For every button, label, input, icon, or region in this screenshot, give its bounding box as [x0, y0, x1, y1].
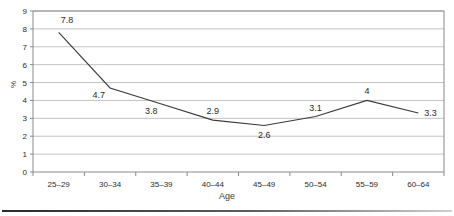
data-point-label: 7.8: [61, 15, 74, 25]
footer-divider: [2, 210, 452, 212]
line-chart: 9876543210 25–2930–3435–3940–4445–4950–5…: [0, 0, 454, 216]
data-point-label: 2.9: [207, 106, 220, 116]
y-axis-tick-labels: 9876543210: [23, 7, 28, 177]
x-axis-title: Age: [0, 191, 454, 201]
data-point-label: 2.6: [258, 130, 271, 140]
y-tick-label: 0: [23, 168, 28, 177]
x-category-label: 30–34: [99, 180, 122, 189]
data-point-label: 4.7: [93, 90, 106, 100]
y-tick-label: 9: [23, 7, 28, 16]
x-axis-ticks: [33, 172, 444, 176]
x-category-label: 45–49: [253, 180, 276, 189]
y-tick-label: 1: [23, 150, 28, 159]
x-category-label: 25–29: [48, 180, 71, 189]
x-category-label: 40–44: [202, 180, 225, 189]
y-tick-label: 3: [23, 114, 28, 123]
y-tick-label: 8: [23, 25, 28, 34]
y-axis-title: %: [9, 74, 18, 96]
data-point-label: 3.3: [424, 108, 437, 118]
data-point-label: 4: [364, 86, 369, 96]
y-tick-label: 4: [23, 96, 28, 105]
x-category-label: 60–64: [407, 180, 430, 189]
x-category-label: 50–54: [304, 180, 327, 189]
data-point-label: 3.1: [309, 103, 322, 113]
x-category-label: 35–39: [150, 180, 173, 189]
x-axis-category-labels: 25–2930–3435–3940–4445–4950–5455–5960–64: [48, 180, 430, 189]
y-tick-label: 6: [23, 61, 28, 70]
data-point-label: 3.8: [145, 106, 158, 116]
y-tick-label: 2: [23, 132, 28, 141]
y-tick-label: 7: [23, 43, 28, 52]
x-category-label: 55–59: [356, 180, 379, 189]
y-tick-label: 5: [23, 79, 28, 88]
chart-figure: 9876543210 25–2930–3435–3940–4445–4950–5…: [0, 0, 454, 216]
